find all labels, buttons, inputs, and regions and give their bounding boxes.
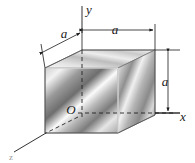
width-dimension-group — [83, 24, 155, 50]
depth-dimension-label: a — [61, 26, 68, 41]
z-axis-label: z — [9, 152, 13, 162]
height-dimension-label: a — [162, 74, 169, 89]
width-dimension-label: a — [112, 22, 119, 37]
z-axis-line — [14, 133, 46, 152]
figure-container: y x z O a a a — [0, 0, 195, 163]
depth-ext-left — [41, 44, 45, 68]
cube-group — [45, 50, 155, 133]
origin-label: O — [66, 102, 76, 117]
cube-diagram: y x z O a a a — [0, 0, 195, 163]
y-axis-label: y — [84, 2, 92, 17]
cube-front-face — [45, 68, 118, 133]
x-axis-label: x — [179, 109, 186, 124]
